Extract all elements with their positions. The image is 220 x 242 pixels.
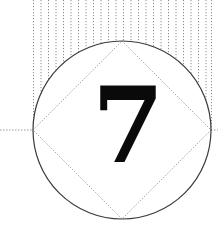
numeral-label: 7 xyxy=(92,78,154,174)
